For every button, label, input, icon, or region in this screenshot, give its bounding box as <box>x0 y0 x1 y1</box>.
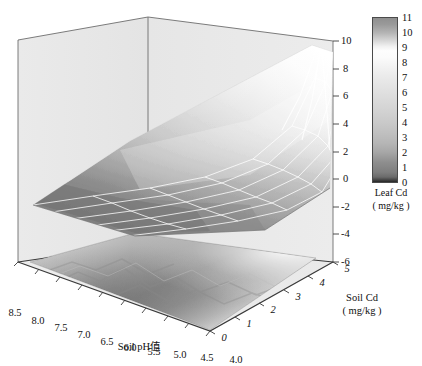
y-tick-4: 4 <box>319 278 324 288</box>
y-tick-1: 1 <box>246 319 251 329</box>
z-tick-3: 0 <box>343 174 348 184</box>
y-tick-3: 3 <box>295 292 300 302</box>
y-tick-2: 2 <box>270 305 275 315</box>
x-tick-3: 7.0 <box>77 330 90 340</box>
z-tick-8: 10 <box>341 36 352 46</box>
cbar-tick-10: 10 <box>402 28 413 38</box>
z-tick-2: -2 <box>341 202 350 212</box>
cbar-tick-6: 6 <box>402 88 407 98</box>
figure-canvas: 8.5 8.0 7.5 7.0 6.5 6.0 5.5 5.0 4.5 4.0 … <box>0 0 422 366</box>
cbar-tick-11: 11 <box>402 13 412 23</box>
colorbar-title-line1: Leaf Cd <box>356 187 422 200</box>
x-tick-9: 4.0 <box>229 355 242 365</box>
z-tick-4: 2 <box>343 147 348 157</box>
y-axis-title: Soil Cd ( mg/kg ) <box>325 292 399 317</box>
colorbar-tick-labels: 0 1 2 3 4 5 6 7 8 9 10 11 <box>402 17 422 183</box>
cbar-tick-4: 4 <box>402 118 407 128</box>
colorbar-title: Leaf Cd ( mg/kg ) <box>356 187 422 212</box>
z-tick-6: 6 <box>343 91 348 101</box>
x-tick-2: 7.5 <box>54 323 67 333</box>
cbar-tick-7: 7 <box>402 73 407 83</box>
cbar-tick-5: 5 <box>402 103 407 113</box>
x-tick-8: 4.5 <box>200 353 213 363</box>
cbar-tick-8: 8 <box>402 58 407 68</box>
cbar-tick-9: 9 <box>402 43 407 53</box>
x-tick-0: 8.5 <box>8 308 21 318</box>
cbar-tick-1: 1 <box>402 163 407 173</box>
x-tick-1: 8.0 <box>31 316 44 326</box>
z-tick-0: -6 <box>341 257 350 267</box>
x-axis-title: Soil pH值 <box>96 341 182 354</box>
y-tick-0: 0 <box>221 333 226 343</box>
cbar-tick-2: 2 <box>402 148 407 158</box>
z-tick-7: 8 <box>343 64 348 74</box>
colorbar-gradient <box>372 17 398 183</box>
cbar-tick-3: 3 <box>402 133 407 143</box>
y-axis-title-line2: ( mg/kg ) <box>325 305 399 318</box>
colorbar-title-line2: ( mg/kg ) <box>356 200 422 213</box>
colorbar: 0 1 2 3 4 5 6 7 8 9 10 11 Leaf Cd ( mg/k… <box>372 17 422 217</box>
y-axis-title-line1: Soil Cd <box>325 292 399 305</box>
z-tick-5: 4 <box>343 119 348 129</box>
z-tick-1: -4 <box>341 229 350 239</box>
